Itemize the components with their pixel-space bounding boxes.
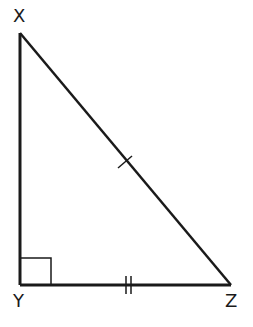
vertex-label-z: Z: [225, 290, 237, 311]
side-xz: [20, 33, 231, 285]
right-angle-marker: [20, 258, 51, 285]
triangle-diagram: X Y Z: [0, 0, 253, 327]
vertex-label-y: Y: [12, 290, 25, 311]
vertex-label-x: X: [13, 5, 25, 26]
